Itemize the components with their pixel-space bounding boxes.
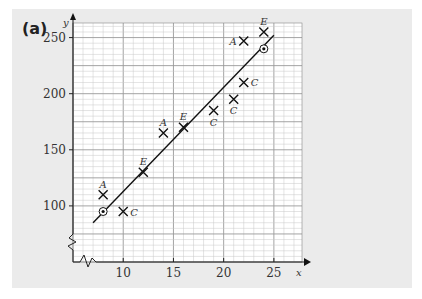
y-tick-label: 100 xyxy=(43,199,66,213)
point-label-a: A xyxy=(229,36,237,47)
x-tick-label: 15 xyxy=(166,266,181,280)
x-tick-label: 25 xyxy=(266,266,281,280)
x-tick-label: 10 xyxy=(116,266,131,280)
point-circled-dot-center xyxy=(102,210,105,213)
y-axis-label: y xyxy=(62,17,69,28)
point-circled-dot-center xyxy=(262,47,265,50)
point-label-c: C xyxy=(251,77,259,88)
grid xyxy=(73,23,302,262)
point-label-e: E xyxy=(179,111,188,122)
y-tick-label: 200 xyxy=(43,87,66,101)
point-label-a: A xyxy=(159,117,167,128)
x-axis-label: x xyxy=(296,267,302,278)
plot-area xyxy=(73,23,302,262)
y-tick-label: 150 xyxy=(43,143,66,157)
y-tick-label: 250 xyxy=(43,31,66,45)
y-axis-arrow xyxy=(70,13,76,20)
point-label-e: E xyxy=(259,16,268,27)
point-label-c: C xyxy=(130,207,138,218)
point-label-c: C xyxy=(230,105,238,116)
point-label-c: C xyxy=(210,117,218,128)
x-tick-label: 20 xyxy=(216,266,231,280)
point-label-e: E xyxy=(139,156,148,167)
point-label-a: A xyxy=(99,179,107,190)
scatter-chart: (a) 10152025100150200250 y x ACEAECCCAE xyxy=(0,0,422,299)
x-axis-arrow xyxy=(304,258,311,266)
